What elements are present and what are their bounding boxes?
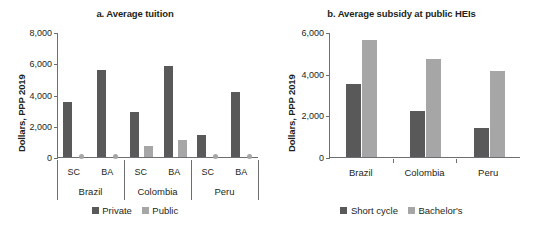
zero-value-marker[interactable] [79, 154, 84, 159]
panel-b-plot-area: 02,0004,0006,000 [329, 33, 520, 158]
panel-a-title: a. Average tuition [0, 8, 270, 19]
x-tick-label-colombia[interactable]: Colombia [404, 167, 444, 178]
y-tick[interactable] [54, 158, 58, 159]
bar[interactable] [97, 70, 106, 158]
zero-value-marker[interactable] [213, 154, 218, 159]
legend-item[interactable]: Private [92, 205, 132, 216]
y-tick-label[interactable]: 4,000 [301, 70, 324, 80]
figure-two-panel-bar-charts: a. Average tuition Dollars, PPP 2019 02,… [0, 0, 533, 235]
legend-label[interactable]: Short cycle [351, 205, 398, 216]
x-tick-label-sc[interactable]: SC [67, 167, 80, 177]
y-tick-label[interactable]: 0 [47, 153, 52, 163]
legend-label[interactable]: Public [152, 205, 178, 216]
panel-a-plot-area: 02,0004,0006,0008,000 [57, 33, 258, 158]
bar[interactable] [410, 111, 425, 157]
panel-b-title: b. Average subsidy at public HEIs [270, 8, 533, 19]
y-tick-label[interactable]: 0 [319, 153, 324, 163]
x-tick-label-sc[interactable]: SC [201, 167, 214, 177]
legend-item[interactable]: Short cycle [340, 205, 398, 216]
legend-swatch[interactable] [408, 207, 415, 214]
bar[interactable] [63, 102, 72, 157]
panel-b-y-axis-label: Dollars, PPP 2019 [286, 74, 297, 152]
x-tick-label-ba[interactable]: BA [168, 167, 180, 177]
bar[interactable] [164, 66, 173, 157]
legend-label[interactable]: Private [102, 205, 132, 216]
y-tick[interactable] [326, 33, 330, 34]
bar[interactable] [426, 59, 441, 157]
y-tick[interactable] [54, 96, 58, 97]
panel-b-bars [330, 33, 520, 157]
panel-b-average-subsidy: b. Average subsidy at public HEIs Dollar… [270, 0, 533, 235]
group-label-colombia[interactable]: Colombia [137, 186, 177, 197]
group-separator[interactable] [124, 160, 125, 200]
panel-a-y-axis-label: Dollars, PPP 2019 [16, 74, 27, 152]
legend-label[interactable]: Bachelor's [418, 205, 462, 216]
group-separator[interactable] [191, 160, 192, 200]
y-tick-label[interactable]: 4,000 [29, 91, 52, 101]
bar[interactable] [178, 140, 187, 157]
group-separator[interactable] [258, 160, 259, 200]
zero-value-marker[interactable] [247, 154, 252, 159]
group-separator[interactable] [57, 160, 58, 200]
x-tick-label-ba[interactable]: BA [235, 167, 247, 177]
y-tick[interactable] [54, 33, 58, 34]
legend-item[interactable]: Bachelor's [408, 205, 463, 216]
bar[interactable] [490, 71, 505, 157]
legend-swatch[interactable] [92, 207, 99, 214]
bar[interactable] [362, 40, 377, 157]
zero-value-marker[interactable] [113, 154, 118, 159]
y-tick[interactable] [54, 127, 58, 128]
bar[interactable] [474, 128, 489, 157]
x-tick-label-peru[interactable]: Peru [478, 167, 498, 178]
panel-b-legend: Short cycleBachelor's [270, 205, 533, 216]
y-tick[interactable] [326, 158, 330, 159]
legend-item[interactable]: Public [142, 205, 178, 216]
y-tick-label[interactable]: 2,000 [29, 122, 52, 132]
group-label-brazil[interactable]: Brazil [79, 186, 103, 197]
legend-swatch[interactable] [340, 207, 347, 214]
y-tick[interactable] [54, 64, 58, 65]
panel-a-legend: PrivatePublic [0, 205, 270, 216]
bar[interactable] [231, 92, 240, 157]
bar[interactable] [130, 112, 139, 157]
y-tick-label[interactable]: 6,000 [301, 28, 324, 38]
bar[interactable] [144, 146, 153, 157]
x-tick-label-sc[interactable]: SC [134, 167, 147, 177]
y-tick[interactable] [326, 116, 330, 117]
bar[interactable] [346, 84, 361, 157]
y-tick-label[interactable]: 8,000 [29, 28, 52, 38]
y-tick-label[interactable]: 2,000 [301, 111, 324, 121]
y-tick[interactable] [326, 75, 330, 76]
bar[interactable] [197, 135, 206, 157]
group-label-peru[interactable]: Peru [214, 186, 234, 197]
x-axis-tick[interactable] [393, 159, 394, 163]
panel-a-average-tuition: a. Average tuition Dollars, PPP 2019 02,… [0, 0, 270, 235]
y-tick-label[interactable]: 6,000 [29, 59, 52, 69]
legend-swatch[interactable] [142, 207, 149, 214]
panel-a-bars [58, 33, 258, 157]
x-tick-label-brazil[interactable]: Brazil [349, 167, 373, 178]
x-tick-label-ba[interactable]: BA [101, 167, 113, 177]
x-axis-tick[interactable] [456, 159, 457, 163]
